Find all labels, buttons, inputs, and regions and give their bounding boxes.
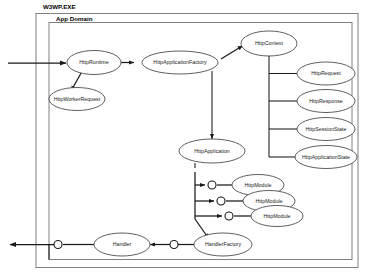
node-httpsessionstate-shape[interactable] [297, 118, 355, 141]
node-httpruntime-shape[interactable] [67, 51, 121, 75]
node-httpmodule-3[interactable]: HttpModule [251, 206, 303, 227]
node-httpapplicationstate[interactable]: HttpApplicationState [295, 146, 357, 169]
node-httpapplicationfactory-shape[interactable] [142, 51, 218, 74]
diagram-root: W3WP.EXE App Domain [0, 0, 367, 275]
handler-connector-circle-left [54, 241, 62, 249]
node-httpresponse[interactable]: HttpResponse [297, 90, 355, 113]
edge-httpapplicationfactory-to-httpcontext [221, 46, 243, 60]
node-handlerfactory-shape[interactable] [194, 233, 252, 256]
node-httpcontext-shape[interactable] [241, 31, 297, 56]
node-httprequest-shape[interactable] [297, 62, 355, 85]
node-httprequest[interactable]: HttpRequest [297, 62, 355, 85]
node-httpapplicationstate-shape[interactable] [295, 146, 357, 169]
node-httpapplicationfactory[interactable]: HttpApplicationFactory [142, 51, 218, 74]
node-handlerfactory[interactable]: HandlerFactory [194, 233, 252, 256]
node-handler-shape[interactable] [94, 233, 150, 256]
httpmodule2-connector-circle [217, 197, 225, 205]
node-httpapplication-shape[interactable] [179, 139, 245, 163]
httpmodule3-connector-circle [225, 212, 233, 220]
container-appdomain-label: App Domain [56, 15, 93, 22]
node-httpmodule-3-shape[interactable] [251, 206, 303, 227]
node-httpsessionstate[interactable]: HttpSessionState [297, 118, 355, 141]
handler-connector-circle-right [170, 241, 178, 249]
pipeline-diagram-canvas: W3WP.EXE App Domain [0, 0, 367, 275]
httpmodule1-connector-circle [208, 181, 216, 189]
node-httpcontext[interactable]: HttpContext [241, 31, 297, 56]
node-httpresponse-shape[interactable] [297, 90, 355, 113]
node-httpapplication[interactable]: HttpApplication [179, 139, 245, 163]
node-handler[interactable]: Handler [94, 233, 150, 256]
node-httpworkerrequest[interactable]: HttpWorkerRequest [49, 88, 105, 111]
container-w3wp-label: W3WP.EXE [43, 3, 76, 10]
node-httpworkerrequest-shape[interactable] [49, 88, 105, 111]
node-httpruntime[interactable]: HttpRuntime [67, 51, 121, 75]
